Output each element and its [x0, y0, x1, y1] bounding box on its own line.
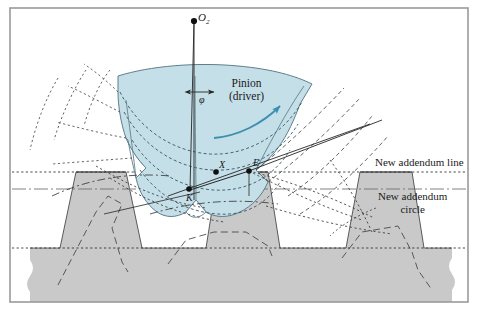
label-pinion-line2: (driver) — [229, 90, 264, 103]
label-point-e: E — [253, 157, 259, 168]
label-pressure-angle: φ — [199, 94, 205, 105]
point-k-dot — [186, 186, 192, 192]
label-addendum-circle-line1: New addendum — [378, 190, 447, 203]
label-new-addendum-line: New addendum line — [375, 156, 464, 168]
point-x-dot — [213, 169, 219, 175]
label-pinion-line1: Pinion — [229, 77, 264, 90]
label-center-o2: O2 — [198, 11, 209, 26]
label-point-k: K — [186, 192, 193, 203]
label-pinion: Pinion (driver) — [229, 77, 264, 103]
point-e-dot — [246, 168, 252, 174]
gear-diagram-figure: O2 Pinion (driver) φ X E K New addendum … — [0, 0, 478, 310]
label-addendum-circle-line2: circle — [378, 203, 447, 216]
label-point-x: X — [219, 159, 225, 170]
point-o2-dot — [191, 18, 197, 24]
label-new-addendum-circle: New addendum circle — [378, 190, 447, 216]
diagram-canvas — [0, 0, 478, 310]
